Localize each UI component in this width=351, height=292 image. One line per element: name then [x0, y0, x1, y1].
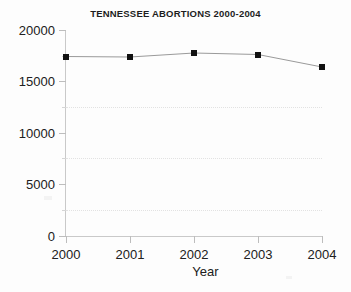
data-point-2002 [191, 50, 197, 56]
y-tick-15000 [59, 81, 66, 82]
x-axis-label-2000: 2000 [36, 247, 96, 262]
chart-figure: TENNESSEE ABORTIONS 2000-2004 20000 1500… [0, 0, 351, 292]
y-tick-0 [59, 236, 66, 237]
data-point-2004 [319, 64, 325, 70]
y-tick-10000 [59, 133, 66, 134]
x-tick-2004 [322, 236, 323, 243]
data-point-2003 [255, 52, 261, 58]
x-axis-label-2003: 2003 [228, 247, 288, 262]
y-axis-label-10000: 10000 [0, 127, 55, 140]
x-axis-label-2004: 2004 [292, 247, 351, 262]
chart-title: TENNESSEE ABORTIONS 2000-2004 [0, 8, 351, 19]
y-tick-5000 [59, 184, 66, 185]
data-point-2001 [127, 54, 133, 60]
x-axis-title: Year [0, 264, 351, 279]
data-point-2000 [63, 54, 69, 60]
y-axis-label-5000: 5000 [0, 178, 55, 191]
y-axis-label-0: 0 [0, 230, 55, 243]
gridline-7500 [66, 158, 322, 159]
gridline-2500 [66, 210, 322, 211]
x-axis-label-2002: 2002 [164, 247, 224, 262]
x-tick-2002 [194, 236, 195, 243]
scan-artifact [44, 196, 52, 200]
gridline-12500 [66, 107, 322, 108]
x-axis-label-2001: 2001 [100, 247, 160, 262]
plot-area [66, 30, 322, 236]
x-tick-2001 [130, 236, 131, 243]
y-axis-label-15000: 15000 [0, 75, 55, 88]
x-tick-2003 [258, 236, 259, 243]
x-tick-2000 [66, 236, 67, 243]
y-axis-label-20000: 20000 [0, 24, 55, 37]
y-tick-20000 [59, 30, 66, 31]
